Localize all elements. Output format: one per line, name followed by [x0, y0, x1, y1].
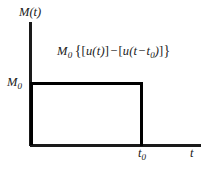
plot-geometry	[0, 0, 208, 170]
equation-inner-minus-operator: −	[137, 44, 146, 58]
x-tick-label-t0: t0	[138, 147, 146, 162]
equation-amplitude: M	[57, 44, 68, 58]
equation-open-brace: {	[75, 43, 82, 58]
equation-amplitude-subscript: 0	[68, 50, 73, 60]
equation-second-term-head: u(t	[123, 44, 138, 58]
figure-canvas: M(t) t M0 t0 M0 {[u(t)]−[u(t−t0)]}	[0, 0, 208, 170]
y-tick-label-m0: M0	[7, 76, 22, 91]
equation-close-brace: }	[163, 43, 170, 58]
equation-first-term: u(t)	[86, 44, 105, 58]
x-tick-subscript: 0	[141, 152, 146, 162]
equation-annotation: M0 {[u(t)]−[u(t−t0)]}	[57, 44, 170, 60]
y-tick-subscript: 0	[17, 81, 22, 91]
y-axis-label: M(t)	[19, 6, 41, 19]
x-axis-label: t	[190, 147, 193, 160]
